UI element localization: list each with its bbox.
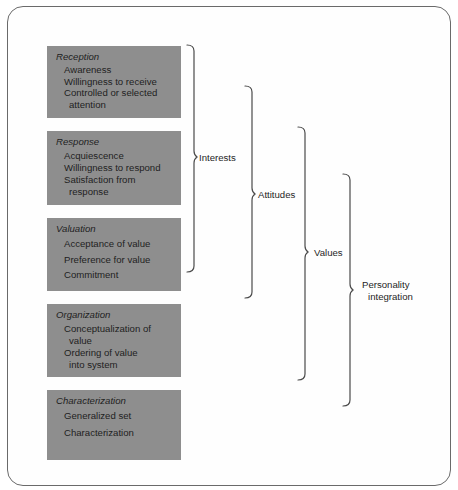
brackets-layer	[0, 0, 458, 490]
bracket-attitudes	[245, 86, 255, 298]
bracket-label-attitudes: Attitudes	[258, 189, 295, 200]
bracket-personality-integration	[343, 174, 353, 406]
bracket-values	[298, 127, 308, 380]
bracket-label-values: Values	[314, 247, 343, 258]
bracket-label-integration: integration	[368, 291, 413, 302]
bracket-interests	[187, 45, 197, 272]
bracket-label-interests: Interests	[199, 152, 236, 163]
bracket-label-personality: Personality	[362, 279, 409, 290]
